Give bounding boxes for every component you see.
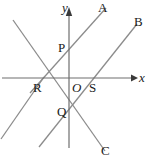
x-axis-arrow-icon	[131, 75, 138, 82]
x-axis-label: x	[139, 71, 145, 84]
point-label-s: S	[89, 81, 96, 94]
axes-group	[2, 7, 138, 148]
origin-label: O	[72, 81, 81, 94]
diagram-canvas: x y O P Q R S A B C	[0, 0, 148, 159]
ray-label-a: A	[98, 1, 107, 14]
point-label-q: Q	[57, 105, 66, 118]
line-QSB	[39, 24, 137, 147]
point-label-p: P	[58, 41, 65, 54]
ray-label-c: C	[101, 144, 110, 157]
point-label-r: R	[33, 81, 42, 94]
ray-label-b: B	[134, 15, 143, 28]
y-axis-label: y	[62, 1, 68, 14]
